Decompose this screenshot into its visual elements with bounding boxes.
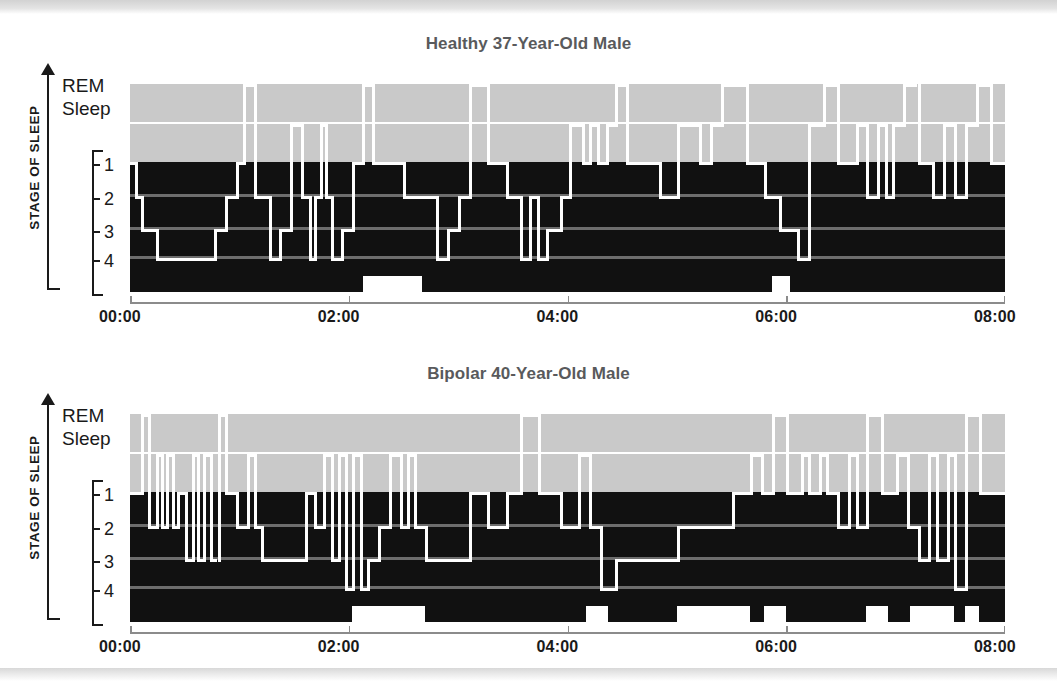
trace-riser-43 (589, 454, 592, 529)
stage-tick-3 (92, 231, 100, 233)
x-tick-label-00:00: 00:00 (99, 638, 141, 656)
trace-riser-29 (487, 84, 490, 165)
trace-riser-8 (243, 84, 246, 165)
trace-riser-33 (414, 454, 417, 529)
out-of-bed-notch-4 (866, 606, 888, 622)
x-tick-06:00 (786, 626, 788, 634)
out-of-bed-notch-0 (352, 606, 425, 622)
x-tick-00:00 (130, 296, 132, 304)
trace-tread-19 (276, 559, 305, 562)
trace-riser-32 (407, 454, 410, 529)
plot-area-healthy (130, 84, 1005, 292)
trace-riser-29 (378, 526, 381, 562)
trace-riser-66 (928, 454, 931, 562)
trace-riser-19 (276, 559, 279, 562)
trace-riser-37 (582, 124, 585, 165)
x-tick-label-06:00: 06:00 (755, 308, 797, 326)
trace-riser-30 (506, 162, 509, 199)
stage-tick-4 (92, 260, 100, 262)
trace-riser-41 (615, 84, 618, 127)
x-tick-04:00 (568, 626, 570, 634)
stage-label-3: 3 (104, 553, 114, 571)
trace-tread-0 (130, 492, 141, 495)
trace-riser-24 (422, 196, 425, 199)
trace-riser-2 (141, 196, 144, 232)
trace-riser-26 (447, 229, 450, 261)
trace-riser-50 (750, 454, 753, 495)
gridline-stage-3 (130, 227, 1005, 230)
trace-riser-42 (626, 84, 629, 165)
trace-riser-40 (606, 124, 609, 165)
trace-riser-10 (197, 454, 200, 562)
y-axis-title-healthy: STAGE OF SLEEP (27, 73, 42, 263)
stage-label-1: 1 (104, 486, 114, 504)
rem-label-line2: Sleep (62, 427, 124, 450)
trace-riser-59 (848, 454, 851, 529)
trace-riser-32 (529, 196, 532, 261)
x-tick-label-08:00: 08:00 (974, 638, 1016, 656)
trace-riser-22 (323, 454, 326, 529)
x-tick-label-02:00: 02:00 (318, 308, 360, 326)
trace-riser-17 (325, 124, 328, 199)
rem-label-line1: REM (62, 404, 124, 427)
trace-riser-23 (403, 162, 406, 199)
trace-riser-12 (290, 124, 293, 232)
trace-riser-37 (487, 492, 490, 529)
trace-riser-18 (331, 196, 334, 261)
trace-riser-34 (425, 526, 428, 562)
stage-tick-4 (92, 590, 100, 592)
trace-riser-36 (569, 124, 572, 199)
rem-label-line1: REM (62, 74, 124, 97)
chart-title-bipolar: Bipolar 40-Year-Old Male (0, 364, 1057, 384)
trace-riser-22 (372, 84, 375, 165)
trace-riser-64 (954, 124, 957, 199)
x-tick-06:00 (786, 296, 788, 304)
trace-riser-10 (269, 196, 272, 261)
rem-sleep-label-bipolar: REM Sleep (62, 404, 124, 450)
gridline-stage-4 (130, 256, 1005, 259)
hypnogram-panel-bipolar: Bipolar 40-Year-Old Male STAGE OF SLEEP … (0, 342, 1057, 672)
trace-riser-59 (892, 124, 895, 199)
trace-riser-13 (218, 414, 221, 562)
trace-riser-7 (177, 492, 180, 529)
trace-riser-35 (444, 559, 447, 562)
x-tick-02:00 (349, 296, 351, 304)
trace-riser-64 (907, 454, 910, 529)
trace-riser-20 (352, 162, 355, 232)
stage-label-2: 2 (104, 520, 114, 538)
trace-riser-65 (918, 526, 921, 562)
trace-riser-7 (236, 162, 239, 199)
y-axis-title-bipolar: STAGE OF SLEEP (27, 403, 42, 593)
trace-riser-31 (400, 454, 403, 529)
trace-riser-47 (677, 526, 680, 562)
trace-riser-15 (236, 492, 239, 529)
trace-riser-14 (309, 196, 312, 261)
trace-riser-68 (947, 454, 950, 562)
out-of-bed-notch-0 (363, 276, 421, 292)
trace-tread-22 (372, 162, 403, 165)
trace-riser-35 (560, 196, 563, 232)
trace-riser-41 (560, 492, 563, 529)
stage-label-3: 3 (104, 223, 114, 241)
trace-riser-53 (823, 84, 826, 127)
trace-riser-11 (279, 229, 282, 261)
trace-riser-52 (772, 414, 775, 495)
trace-riser-62 (881, 414, 884, 495)
trace-riser-57 (826, 454, 829, 495)
trace-riser-58 (885, 124, 888, 199)
trace-riser-61 (918, 84, 921, 165)
trace-tread-40 (538, 492, 560, 495)
x-tick-00:00 (130, 626, 132, 634)
trace-tread-47 (721, 84, 747, 87)
x-tick-label-04:00: 04:00 (537, 638, 579, 656)
trace-riser-2 (148, 414, 151, 529)
trace-riser-54 (837, 84, 840, 165)
trace-riser-4 (170, 258, 173, 261)
trace-riser-3 (156, 229, 159, 261)
trace-riser-9 (192, 454, 195, 562)
x-tick-08:00 (1004, 626, 1006, 634)
trace-riser-61 (866, 414, 869, 529)
trace-riser-39 (597, 124, 600, 165)
out-of-bed-notch-6 (965, 606, 980, 622)
x-tick-label-08:00: 08:00 (974, 308, 1016, 326)
